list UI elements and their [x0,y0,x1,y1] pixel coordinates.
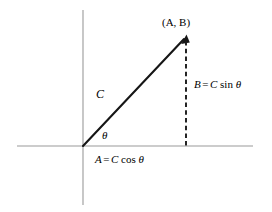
angle-label: θ [102,130,107,141]
x-component-variable: A [95,153,102,165]
y-component-equals: = [201,78,210,90]
vector-magnitude-label: C [96,88,104,100]
point-coordinates-label: (A, B) [162,17,190,28]
x-component-label: A=C cos θ [95,154,144,165]
y-component-variable: B [194,78,201,90]
point-coordinates-text: (A, B) [162,16,190,28]
y-component-magnitude: C [210,78,217,90]
vector-magnitude-text: C [96,87,104,101]
y-component-function: sin [220,78,233,90]
vector-components-diagram: (A, B) C θ A=C cos θ B=C sin θ [0,0,272,212]
x-component-equals: = [102,153,111,165]
angle-text: θ [102,129,107,141]
x-component-function: cos [121,153,136,165]
y-component-label: B=C sin θ [194,79,241,90]
y-component-angle: θ [236,78,241,90]
x-component-magnitude: C [111,153,118,165]
x-component-angle: θ [138,153,143,165]
diagram-canvas [0,0,272,212]
